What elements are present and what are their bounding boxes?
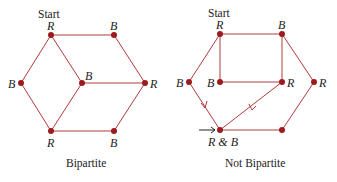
node-label: B xyxy=(110,136,118,150)
node-label: B xyxy=(8,77,16,91)
conflict-label: R & B xyxy=(207,135,239,149)
node xyxy=(18,80,24,86)
edge xyxy=(189,82,220,130)
node-label: R xyxy=(215,18,224,32)
edge xyxy=(114,83,145,131)
node xyxy=(186,79,192,85)
edge xyxy=(189,34,220,82)
bipartite-diagram: Start R B B B R R B Bipartite xyxy=(0,0,337,182)
node-conflict xyxy=(217,127,223,133)
node xyxy=(279,79,285,85)
node-label: B xyxy=(85,69,93,83)
caption-not-bipartite: Not Bipartite xyxy=(225,157,285,170)
node xyxy=(311,79,317,85)
node-label: R xyxy=(286,76,295,90)
node-label: R xyxy=(46,19,55,33)
node-label: B xyxy=(110,19,118,33)
node xyxy=(48,128,54,134)
caption-bipartite: Bipartite xyxy=(66,157,106,170)
node xyxy=(217,79,223,85)
edge xyxy=(51,35,82,83)
edge xyxy=(21,83,51,131)
node xyxy=(111,128,117,134)
node xyxy=(142,80,148,86)
left-graph-labels: Start R B B B R R B Bipartite xyxy=(8,8,158,170)
edge xyxy=(114,35,145,83)
edge xyxy=(51,83,82,131)
node-label: R xyxy=(46,136,55,150)
edge xyxy=(21,35,51,83)
edge xyxy=(282,34,314,82)
node-label: B xyxy=(207,76,215,90)
right-graph-labels: Start R B B B R R R & B Not Bipartite xyxy=(176,7,327,170)
conflict-pointer-arrow-icon xyxy=(199,127,215,133)
node-label: R xyxy=(149,77,158,91)
node xyxy=(279,127,285,133)
edge xyxy=(220,82,282,130)
node-label: R xyxy=(318,76,327,90)
node-label: B xyxy=(176,76,184,90)
node-label: B xyxy=(278,18,286,32)
